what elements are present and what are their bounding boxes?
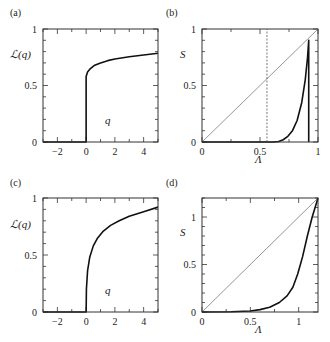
panel-b: (b)00.5100.51SΛ	[166, 7, 321, 165]
axis-ticks	[43, 198, 158, 312]
x-tick-label: 0	[84, 316, 89, 327]
x-tick-label: 2	[112, 146, 117, 157]
x-tick-label: 2	[112, 316, 117, 327]
y-tick-label: 0	[191, 137, 196, 148]
x-axis-label: Λ	[254, 323, 262, 335]
y-tick-label: 1	[32, 24, 37, 35]
axis-ticks	[43, 29, 158, 142]
y-tick-label: 0.5	[184, 80, 197, 91]
y-axis-label: S	[180, 226, 186, 238]
y-tick-label: 1	[191, 24, 196, 35]
y-axis-label: ℒ(q)	[10, 218, 31, 231]
panel-label: (b)	[166, 7, 178, 19]
x-tick-label: 0	[84, 146, 89, 157]
x-axis-label: q	[105, 284, 111, 296]
x-axis-label: Λ	[254, 153, 262, 165]
y-tick-label: 0	[32, 307, 37, 318]
y-tick-label: 1	[32, 193, 37, 204]
diagonal-line	[202, 198, 318, 312]
y-axis-label: S	[180, 48, 186, 60]
panel-a: (a)−202400.51ℒ(q)q	[10, 7, 158, 157]
panel-label: (d)	[166, 177, 178, 189]
x-tick-label: 1	[296, 316, 301, 327]
y-tick-label: 1	[191, 212, 196, 223]
panel-label: (a)	[10, 7, 21, 19]
panel-label: (c)	[10, 177, 21, 189]
y-tick-label: 0.5	[25, 250, 38, 261]
x-axis-label: q	[105, 114, 111, 126]
panel-d: (d)00.5100.51SΛ	[166, 177, 318, 335]
axes-frame	[43, 198, 158, 312]
figure: (a)−202400.51ℒ(q)q (b)00.5100.51SΛ (c)−2…	[0, 0, 330, 342]
x-tick-label: 1	[316, 146, 321, 157]
x-tick-label: 0	[200, 316, 205, 327]
x-tick-label: −2	[52, 146, 63, 157]
y-tick-label: 0	[191, 307, 196, 318]
data-curve	[43, 53, 158, 142]
y-tick-label: 0.5	[25, 80, 38, 91]
panel-c: (c)−202400.51ℒ(q)q	[10, 177, 158, 327]
data-curve	[43, 207, 158, 312]
x-tick-label: 4	[141, 146, 146, 157]
axes-frame	[43, 29, 158, 142]
y-tick-label: 0	[32, 137, 37, 148]
x-tick-label: 0	[200, 146, 205, 157]
y-tick-label: 0.5	[184, 259, 197, 270]
y-axis-label: ℒ(q)	[10, 48, 31, 61]
x-tick-label: 4	[141, 316, 146, 327]
diagonal-line	[202, 29, 318, 142]
x-tick-label: −2	[52, 316, 63, 327]
